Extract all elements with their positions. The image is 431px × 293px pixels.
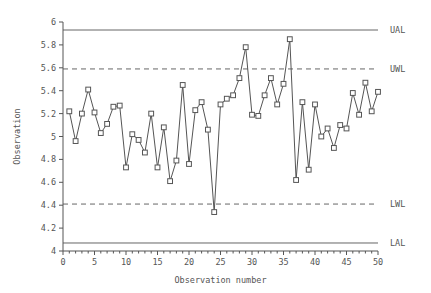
data-point-marker [86, 87, 91, 92]
data-line [69, 39, 378, 212]
y-axis-title: Observation [12, 108, 22, 164]
x-axis-tick-label: 10 [121, 257, 131, 267]
data-point-marker [300, 100, 305, 105]
data-point-marker [212, 210, 217, 215]
x-axis-tick-label: 0 [60, 257, 65, 267]
data-point-marker [313, 102, 318, 107]
x-axis-tick-label: 30 [247, 257, 257, 267]
y-axis-tick-label: 5 [51, 132, 56, 142]
data-point-marker [363, 80, 368, 85]
x-axis-tick-label: 45 [341, 257, 351, 267]
x-axis-tick-label: 50 [373, 257, 383, 267]
data-point-marker [275, 102, 280, 107]
data-point-marker [287, 37, 292, 42]
control-limit-label-ual: UAL [390, 25, 405, 35]
data-point-marker [98, 131, 103, 136]
y-axis-tick-label: 4.2 [41, 223, 56, 233]
data-point-marker [136, 138, 141, 143]
data-point-marker [269, 76, 274, 81]
data-point-marker [338, 123, 343, 128]
data-point-marker [224, 96, 229, 101]
data-point-marker [180, 83, 185, 88]
data-point-marker [111, 104, 116, 109]
control-limit-label-lal: LAL [390, 238, 405, 248]
plot-area: UALUWLLWLLAL44.24.44.64.855.25.45.65.860… [0, 0, 431, 293]
data-point-marker [243, 45, 248, 50]
data-point-marker [149, 111, 154, 116]
y-axis-tick-label: 5.8 [41, 40, 56, 50]
data-point-marker [73, 139, 78, 144]
data-point-marker [218, 102, 223, 107]
y-axis-tick-label: 6 [51, 17, 56, 27]
y-axis-tick-label: 5.6 [41, 63, 56, 73]
data-point-marker [281, 81, 286, 86]
x-axis-tick-label: 20 [184, 257, 194, 267]
x-axis-tick-label: 40 [310, 257, 320, 267]
data-point-marker [174, 158, 179, 163]
data-point-marker [357, 112, 362, 117]
data-point-marker [376, 89, 381, 94]
data-point-marker [105, 122, 110, 127]
data-point-marker [231, 93, 236, 98]
control-limit-label-lwl: LWL [390, 199, 405, 209]
control-chart: UALUWLLWLLAL44.24.44.64.855.25.45.65.860… [0, 0, 431, 293]
data-point-marker [124, 165, 129, 170]
data-point-marker [80, 111, 85, 116]
data-point-marker [306, 167, 311, 172]
data-point-marker [369, 109, 374, 114]
control-limit-label-uwl: UWL [390, 64, 405, 74]
data-point-marker [325, 126, 330, 131]
data-point-marker [344, 126, 349, 131]
data-point-marker [294, 178, 299, 183]
data-point-marker [130, 132, 135, 137]
x-axis-title: Observation number [174, 275, 266, 285]
data-point-marker [237, 76, 242, 81]
data-point-marker [187, 162, 192, 167]
data-point-marker [350, 91, 355, 96]
data-point-marker [155, 165, 160, 170]
x-axis-tick-label: 25 [215, 257, 225, 267]
data-point-marker [168, 179, 173, 184]
data-point-marker [262, 93, 267, 98]
y-axis-tick-label: 4.6 [41, 177, 56, 187]
data-point-marker [92, 110, 97, 115]
x-axis-tick-label: 15 [152, 257, 162, 267]
y-axis-tick-label: 4.8 [41, 154, 56, 164]
y-axis-tick-label: 4.4 [41, 200, 56, 210]
y-axis-tick-label: 5.4 [41, 86, 56, 96]
data-point-marker [117, 103, 122, 108]
data-point-marker [193, 108, 198, 113]
data-point-marker [256, 113, 261, 118]
data-point-marker [206, 127, 211, 132]
y-axis-tick-label: 4 [51, 246, 56, 256]
x-axis-tick-label: 35 [278, 257, 288, 267]
data-point-marker [199, 100, 204, 105]
data-point-marker [161, 125, 166, 130]
data-point-marker [332, 146, 337, 151]
data-point-marker [143, 150, 148, 155]
x-axis-tick-label: 5 [92, 257, 97, 267]
data-point-marker [67, 109, 72, 114]
data-point-marker [250, 112, 255, 117]
y-axis-tick-label: 5.2 [41, 109, 56, 119]
data-point-marker [319, 134, 324, 139]
